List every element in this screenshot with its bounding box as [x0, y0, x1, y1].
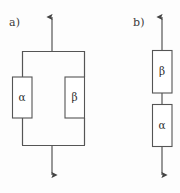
panel-a-block-beta-label: β	[71, 92, 77, 103]
panel-a-label: a)	[9, 17, 20, 28]
panel-b-block-alpha-label: α	[158, 120, 165, 131]
figure-canvas: a) b) α β β α	[0, 0, 180, 193]
panel-b-group	[153, 17, 173, 175]
panel-b-label: b)	[133, 17, 145, 28]
panel-b-block-beta-label: β	[159, 66, 165, 77]
diagram-vector-layer	[0, 0, 180, 193]
panel-a-block-alpha-label: α	[18, 92, 25, 103]
